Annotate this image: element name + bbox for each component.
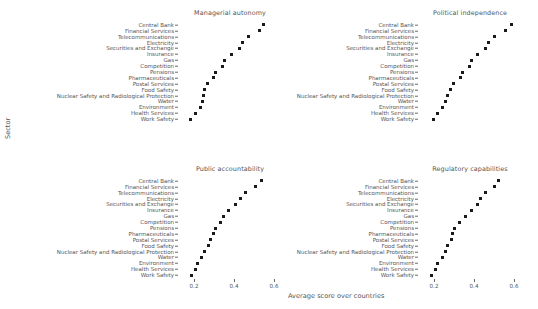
data-point-marker	[194, 112, 197, 115]
y-axis-tick-mark	[415, 113, 418, 114]
y-axis-tick-mark	[175, 36, 178, 37]
data-point-marker	[459, 76, 462, 79]
data-point-marker	[446, 94, 449, 97]
y-axis-tick-mark	[175, 54, 178, 55]
y-axis-tick-mark	[415, 234, 418, 235]
data-point-marker	[461, 71, 464, 74]
y-axis-tick-mark	[415, 36, 418, 37]
y-axis-tick-mark	[175, 101, 178, 102]
y-axis-tick-mark	[415, 72, 418, 73]
data-point-marker	[254, 185, 257, 188]
y-axis-tick-mark	[415, 95, 418, 96]
data-point-marker	[434, 268, 437, 271]
y-axis-tick-mark	[175, 31, 178, 32]
data-point-marker	[202, 94, 205, 97]
y-axis-tick-mark	[175, 192, 178, 193]
x-axis-tick-mark	[474, 279, 475, 282]
y-axis-tick-mark	[415, 119, 418, 120]
y-axis-tick-mark	[175, 222, 178, 223]
data-point-marker	[484, 47, 487, 50]
data-point-marker	[260, 179, 263, 182]
data-point-marker	[203, 88, 206, 91]
data-point-marker	[212, 76, 215, 79]
data-point-marker	[430, 274, 433, 277]
y-axis-tick-mark	[415, 269, 418, 270]
x-axis-label: Average score over countries	[288, 292, 384, 300]
y-axis-tick-mark	[415, 216, 418, 217]
y-axis-tick-mark	[175, 119, 178, 120]
data-point-marker	[262, 23, 265, 26]
y-axis-tick-label: Work Safety	[286, 116, 414, 122]
data-point-marker	[201, 100, 204, 103]
data-point-marker	[223, 59, 226, 62]
y-axis-tick-mark	[175, 263, 178, 264]
data-point-marker	[200, 256, 203, 259]
y-axis-tick-mark	[415, 204, 418, 205]
data-point-marker	[441, 256, 444, 259]
data-point-marker	[189, 118, 192, 121]
y-axis-tick-mark	[175, 107, 178, 108]
y-axis-tick-mark	[175, 78, 178, 79]
data-point-marker	[452, 82, 455, 85]
y-axis-tick-mark	[415, 89, 418, 90]
data-point-marker	[468, 65, 471, 68]
y-axis-tick-mark	[175, 48, 178, 49]
y-axis-tick-mark	[175, 210, 178, 211]
y-axis-tick-mark	[415, 257, 418, 258]
y-axis-tick-mark	[415, 192, 418, 193]
data-point-marker	[451, 232, 454, 235]
figure-canvas: Sector Average score over countries Mana…	[0, 0, 538, 309]
data-point-marker	[476, 53, 479, 56]
y-axis-tick-mark	[175, 113, 178, 114]
y-axis-tick-mark	[415, 181, 418, 182]
panel-title: Regulatory capabilities	[418, 165, 522, 173]
x-axis-tick-mark	[194, 279, 195, 282]
data-point-marker	[497, 179, 500, 182]
y-axis-tick-mark	[175, 42, 178, 43]
x-axis-tick-label: 0.6	[510, 283, 519, 289]
y-axis-tick-mark	[415, 66, 418, 67]
data-point-marker	[212, 232, 215, 235]
x-axis-tick-mark	[274, 279, 275, 282]
y-axis-tick-mark	[415, 60, 418, 61]
y-axis-tick-mark	[175, 245, 178, 246]
data-point-marker	[450, 238, 453, 241]
x-axis-tick-mark	[514, 279, 515, 282]
y-axis-tick-mark	[415, 251, 418, 252]
y-axis-tick-label: Work Safety	[46, 272, 174, 278]
y-axis-tick-mark	[175, 239, 178, 240]
data-point-marker	[190, 274, 193, 277]
data-point-marker	[219, 221, 222, 224]
x-axis-tick-mark	[434, 279, 435, 282]
data-point-marker	[244, 191, 247, 194]
data-point-marker	[207, 244, 210, 247]
data-point-marker	[504, 29, 507, 32]
x-axis-tick-label: 0.2	[190, 283, 199, 289]
y-axis-tick-mark	[415, 187, 418, 188]
y-axis-tick-mark	[415, 78, 418, 79]
data-point-marker	[196, 262, 199, 265]
y-axis-tick-mark	[175, 83, 178, 84]
x-axis-tick-label: 0.4	[470, 283, 479, 289]
y-axis-tick-label: Work Safety	[46, 116, 174, 122]
data-point-marker	[484, 191, 487, 194]
y-axis-tick-mark	[415, 263, 418, 264]
y-axis-tick-mark	[175, 181, 178, 182]
data-point-marker	[230, 53, 233, 56]
y-axis-tick-mark	[175, 89, 178, 90]
y-axis-tick-mark	[175, 257, 178, 258]
data-point-marker	[214, 227, 217, 230]
y-axis-tick-mark	[415, 54, 418, 55]
y-axis-tick-mark	[175, 60, 178, 61]
y-axis-tick-mark	[415, 48, 418, 49]
y-axis-tick-mark	[175, 251, 178, 252]
y-axis-tick-mark	[415, 42, 418, 43]
data-point-marker	[199, 106, 202, 109]
data-point-marker	[239, 197, 242, 200]
data-point-marker	[234, 203, 237, 206]
panel-title: Managerial autonomy	[178, 9, 282, 17]
data-point-marker	[436, 262, 439, 265]
y-axis-tick-mark	[415, 25, 418, 26]
data-point-marker	[432, 118, 435, 121]
y-axis-tick-mark	[415, 31, 418, 32]
